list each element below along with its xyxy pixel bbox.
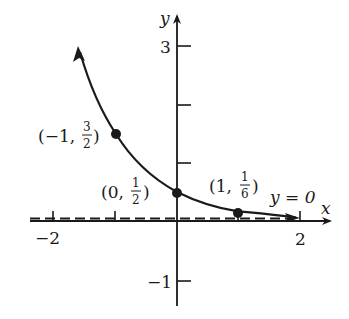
asymptote-label: y = 0 xyxy=(269,187,316,207)
point-label-0: (0, 1 2 ) xyxy=(101,176,150,207)
point-label-1: (1, 1 6 ) xyxy=(209,170,259,201)
y-axis-label: y xyxy=(159,8,170,28)
svg-text:1: 1 xyxy=(241,170,249,184)
y-axis xyxy=(177,16,191,306)
svg-text:(1,: (1, xyxy=(209,176,232,196)
y-tick-label-neg1: −1 xyxy=(147,272,172,292)
svg-text:(−1,: (−1, xyxy=(38,126,75,146)
svg-text:): ) xyxy=(252,176,259,196)
svg-text:2: 2 xyxy=(132,193,140,207)
point-neg1-3over2 xyxy=(111,129,121,139)
svg-text:(0,: (0, xyxy=(101,182,124,202)
x-tick-label-neg2: −2 xyxy=(35,228,60,248)
curve-arrow-up-icon xyxy=(73,46,85,62)
x-tick-label-2: 2 xyxy=(295,229,306,249)
svg-text:6: 6 xyxy=(241,187,249,201)
y-tick-label-3: 3 xyxy=(160,37,171,57)
point-0-1over2 xyxy=(172,188,182,198)
svg-text:3: 3 xyxy=(83,120,91,134)
svg-text:2: 2 xyxy=(83,137,91,151)
svg-text:1: 1 xyxy=(132,176,140,190)
point-1-1over6 xyxy=(233,208,243,218)
chart-canvas: y x 3 −1 −2 2 y = 0 (−1, 3 2 ) (0, 1 2 )… xyxy=(0,0,349,319)
svg-text:): ) xyxy=(93,126,100,146)
x-axis-label: x xyxy=(321,198,331,218)
svg-text:): ) xyxy=(143,182,150,202)
point-label-neg1: (−1, 3 2 ) xyxy=(38,120,100,151)
